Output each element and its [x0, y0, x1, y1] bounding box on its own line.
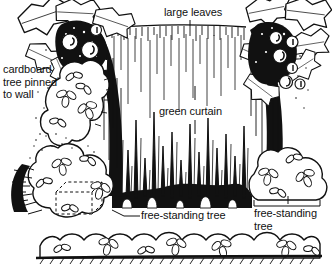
label-cardboard-tree: cardboard tree pinned to wall — [3, 63, 81, 101]
figure-canvas: cardboard tree pinned to wall large leav… — [0, 0, 332, 272]
label-free-standing-tree-center: free-standing tree — [141, 209, 241, 222]
label-green-curtain: green curtain — [159, 105, 239, 118]
label-large-leaves: large leaves — [164, 6, 254, 19]
label-free-standing-tree-right: free-standing tree — [254, 207, 324, 232]
